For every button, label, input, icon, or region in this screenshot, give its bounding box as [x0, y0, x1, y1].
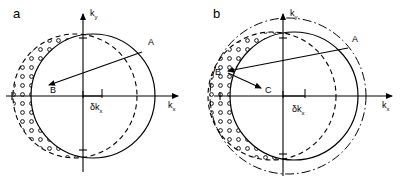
point-label-b-A: A [352, 34, 358, 44]
point-label-b-C: C [265, 85, 272, 95]
figure-root: a kx ky A B δkx [0, 0, 400, 183]
panel-b: b kx ky A B C δkx [200, 0, 400, 183]
scattering-arrow-a [49, 52, 142, 85]
panel-label-b: b [213, 6, 220, 21]
delta-kx-label-b: δkx [292, 104, 305, 116]
x-axis-label-b: kx [382, 100, 390, 112]
panel-label-a: a [13, 6, 21, 21]
delta-kx-marker-a [83, 89, 102, 98]
point-label-b-B: B [215, 67, 221, 77]
delta-kx-label-a: δkx [90, 102, 103, 114]
point-label-a-A: A [148, 37, 154, 47]
scattering-arrow-b-2 [228, 73, 261, 88]
point-label-a-B: B [50, 85, 56, 95]
delta-kx-marker-b [283, 89, 305, 98]
x-axis-label-a: kx [168, 100, 176, 112]
y-axis-label-b: ky [290, 8, 298, 20]
y-axis-label-a: ky [90, 8, 98, 20]
panel-a: a kx ky A B δkx [0, 0, 200, 183]
